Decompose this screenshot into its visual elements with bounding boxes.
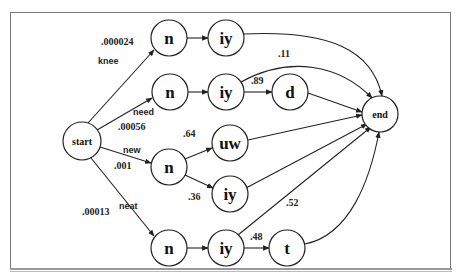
diagram-canvas: startniyniydendnuwiyniyt kneeneednewneat… xyxy=(0,0,460,280)
node-uw_new: uw xyxy=(212,125,248,161)
probability-label: .00013 xyxy=(82,206,110,217)
word-label-need: need xyxy=(133,107,154,117)
probability-label: .001 xyxy=(114,160,132,171)
node-label: end xyxy=(372,109,388,120)
node-label: iy xyxy=(223,185,237,204)
node-iy_knee: iy xyxy=(208,20,244,56)
node-n_knee: n xyxy=(151,20,187,56)
edge-d_need-to-end xyxy=(308,93,362,112)
node-label: start xyxy=(72,136,93,147)
probability-label: .64 xyxy=(183,128,196,139)
edge-iy_neat-to-end xyxy=(238,127,371,235)
word-label-neat: neat xyxy=(119,201,138,211)
labels: kneeneednewneat.000024.00056.001.00013.1… xyxy=(82,36,299,242)
node-t_neat: t xyxy=(269,230,305,266)
node-start: start xyxy=(63,122,101,160)
probability-label: .52 xyxy=(286,197,299,208)
node-label: n xyxy=(164,158,174,177)
node-iy_new: iy xyxy=(212,176,248,212)
pronunciation-network: startniyniydendnuwiyniyt kneeneednewneat… xyxy=(0,0,460,280)
probability-label: .89 xyxy=(251,75,264,86)
node-iy_need: iy xyxy=(208,74,244,110)
node-label: iy xyxy=(219,83,233,102)
edge-iy_new-to-end xyxy=(246,124,367,188)
word-label-new: new xyxy=(123,145,142,155)
probability-label: .00056 xyxy=(118,121,146,132)
node-label: n xyxy=(164,29,174,48)
node-label: uw xyxy=(219,134,241,153)
node-label: n xyxy=(165,83,175,102)
node-n_need: n xyxy=(152,74,188,110)
edge-n_new-to-uw_new xyxy=(185,148,212,159)
edge-n_new-to-iy_new xyxy=(185,175,213,188)
edge-t_neat-to-end xyxy=(305,132,379,244)
probability-label: .36 xyxy=(188,191,201,202)
edge-iy_knee-to-end xyxy=(244,34,382,96)
node-d_need: d xyxy=(272,74,308,110)
node-label: iy xyxy=(219,239,233,258)
word-label-knee: knee xyxy=(98,56,119,66)
node-n_neat: n xyxy=(151,230,187,266)
node-iy_neat: iy xyxy=(208,230,244,266)
node-label: d xyxy=(285,83,295,102)
node-label: t xyxy=(284,239,290,258)
node-label: n xyxy=(164,239,174,258)
node-label: iy xyxy=(219,29,233,48)
probability-label: .11 xyxy=(278,48,290,59)
probability-label: .000024 xyxy=(101,36,134,47)
probability-label: .48 xyxy=(250,231,263,242)
node-end: end xyxy=(362,96,398,132)
node-n_new: n xyxy=(151,149,187,185)
